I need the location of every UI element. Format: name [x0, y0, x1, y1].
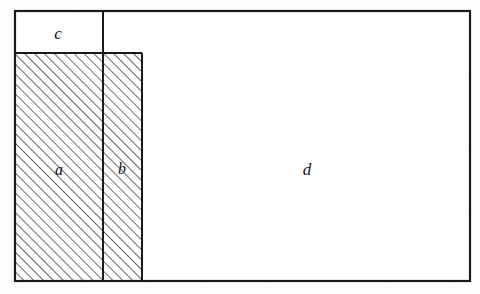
- region-a[interactable]: a: [16, 53, 103, 280]
- region-b[interactable]: b: [103, 53, 142, 280]
- region-d[interactable]: d: [142, 11, 470, 281]
- region-d-label: d: [303, 160, 312, 179]
- region-a-label: a: [55, 161, 63, 178]
- figure-container: d c a b: [0, 0, 480, 294]
- region-c-label: c: [54, 24, 62, 43]
- region-d-area: [142, 11, 470, 281]
- diagram-canvas: d c a b: [0, 0, 480, 294]
- region-b-label: b: [118, 160, 126, 177]
- region-c[interactable]: c: [15, 11, 103, 53]
